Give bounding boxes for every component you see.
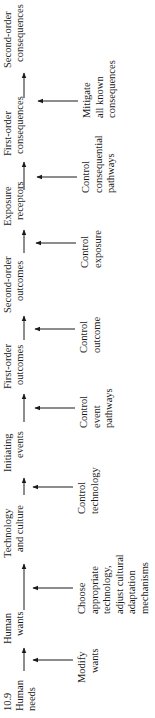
control-line: Control	[78, 317, 91, 353]
node-line: Technology	[2, 505, 14, 558]
node-human-wants: Human wants	[2, 612, 25, 645]
control-line: all known	[94, 60, 107, 118]
control-line: consequences	[106, 60, 119, 118]
control-line: outcome	[91, 317, 104, 353]
node-line: Initiating	[2, 431, 14, 472]
node-line: Second-order	[2, 256, 14, 313]
control-line: technology,	[101, 554, 114, 614]
node-line: consequences	[14, 4, 26, 68]
node-line: consequences	[14, 96, 26, 156]
figure-number-text: 10.9	[2, 693, 13, 711]
node-initiating-events: Initiating events	[2, 431, 25, 472]
node-line: outcomes	[14, 256, 26, 313]
node-line: and culture	[14, 505, 26, 558]
control-line: consequential	[93, 135, 106, 193]
control-choose-technology: Choose appropriate technology, adjust cu…	[76, 554, 151, 614]
control-line: Control	[76, 467, 89, 514]
node-first-order-outcomes: First-order outcomes	[2, 344, 25, 389]
control-control-technology: Control technology	[76, 467, 101, 514]
control-mitigate-consequences: Mitigate all known consequences	[81, 60, 119, 118]
control-line: mechanisms	[139, 554, 152, 614]
control-line: pathways	[103, 388, 116, 428]
control-line: exposure	[92, 230, 105, 268]
node-line: receptors	[14, 182, 26, 226]
node-technology-and-culture: Technology and culture	[2, 505, 25, 558]
control-line: Control	[79, 230, 92, 268]
node-line: Human	[14, 680, 26, 711]
control-modify-wants: Modify wants	[76, 649, 101, 684]
control-line: Control	[78, 388, 91, 428]
control-line: event	[91, 388, 104, 428]
node-line: Exposure	[2, 182, 14, 226]
control-line: Modify	[76, 649, 89, 684]
node-line: outcomes	[14, 344, 26, 389]
node-line: events	[14, 431, 26, 472]
node-second-order-consequences: Second-order consequences	[2, 4, 25, 68]
control-line: adaptation	[126, 554, 139, 614]
node-line: needs	[26, 680, 38, 711]
node-line: Human	[2, 612, 14, 645]
control-line: Control	[80, 135, 93, 193]
node-second-order-outcomes: Second-order outcomes	[2, 256, 25, 313]
control-line: Mitigate	[81, 60, 94, 118]
node-line: First-order	[2, 344, 14, 389]
control-line: adjust cultural	[114, 554, 127, 614]
control-line: Choose	[76, 554, 89, 614]
control-line: appropriate	[89, 554, 102, 614]
control-outcome: Control outcome	[78, 317, 103, 353]
figure-number: 10.9	[2, 693, 14, 711]
control-line: technology	[89, 467, 102, 514]
hazard-causal-chain-diagram: 10.9 Human needs Human wants Technology …	[0, 0, 155, 718]
node-line: wants	[14, 612, 26, 645]
control-line: wants	[89, 649, 102, 684]
node-line: First-order	[2, 96, 14, 156]
control-consequential-pathways: Control consequential pathways	[80, 135, 118, 193]
control-line: pathways	[105, 135, 118, 193]
control-event-pathways: Control event pathways	[78, 388, 116, 428]
control-exposure: Control exposure	[79, 230, 104, 268]
node-line: Second-order	[2, 4, 14, 68]
node-human-needs: Human needs	[14, 680, 37, 711]
node-first-order-consequences: First-order consequences	[2, 96, 25, 156]
node-exposure-receptors: Exposure receptors	[2, 182, 25, 226]
